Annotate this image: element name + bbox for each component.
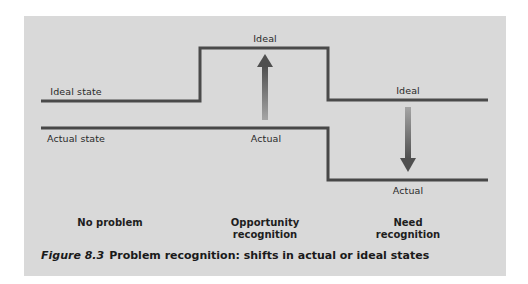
phase-no-problem: No problem <box>77 217 142 229</box>
arrow-down-icon <box>400 107 416 172</box>
phase-line2: recognition <box>376 229 440 241</box>
need-ideal-label: Ideal <box>396 85 420 96</box>
phase-opportunity-recognition: Opportunity recognition <box>231 217 299 241</box>
opportunity-actual-label: Actual <box>251 133 281 144</box>
opportunity-ideal-label: Ideal <box>253 33 277 44</box>
figure-number: Figure 8.3 <box>41 249 104 262</box>
figure-title: Problem recognition: shifts in actual or… <box>109 249 429 262</box>
ideal-state-label: Ideal state <box>50 86 101 97</box>
need-actual-label: Actual <box>393 185 423 196</box>
phase-line2: recognition <box>231 229 299 241</box>
figure-caption: Figure 8.3Problem recognition: shifts in… <box>41 249 429 262</box>
arrow-up-icon <box>257 54 273 120</box>
phase-line1: No problem <box>77 217 142 229</box>
phase-line1: Opportunity <box>231 217 299 229</box>
phase-need-recognition: Need recognition <box>376 217 440 241</box>
phase-line1: Need <box>376 217 440 229</box>
actual-state-label: Actual state <box>47 133 105 144</box>
